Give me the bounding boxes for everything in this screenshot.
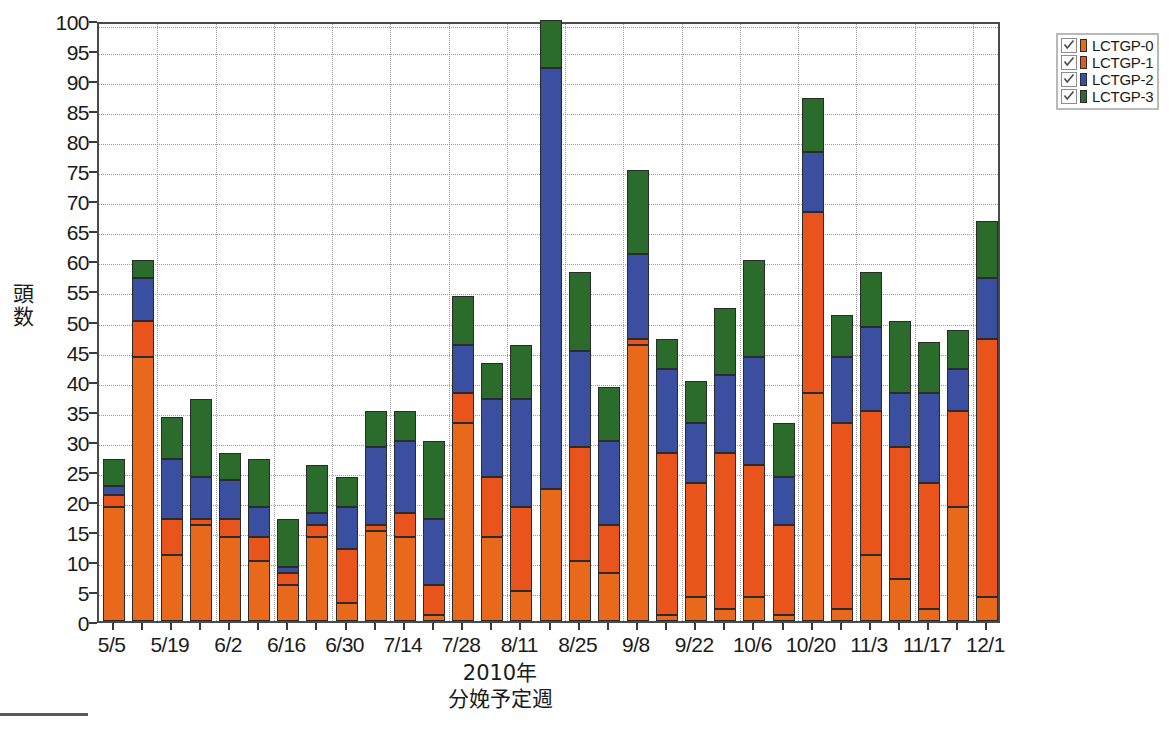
bar-segment-lctgp-0[interactable]: [190, 525, 212, 621]
bar-group[interactable]: [743, 20, 765, 621]
bar-segment-lctgp-3[interactable]: [540, 20, 562, 68]
bar-segment-lctgp-1[interactable]: [918, 483, 940, 609]
bar-segment-lctgp-0[interactable]: [598, 573, 620, 621]
bar-segment-lctgp-0[interactable]: [394, 537, 416, 621]
bar-segment-lctgp-2[interactable]: [103, 486, 125, 495]
bar-segment-lctgp-0[interactable]: [831, 609, 853, 621]
bar-segment-lctgp-2[interactable]: [394, 441, 416, 513]
bar-segment-lctgp-1[interactable]: [569, 447, 591, 561]
bar-segment-lctgp-2[interactable]: [947, 369, 969, 411]
bar-segment-lctgp-3[interactable]: [889, 321, 911, 393]
bar-segment-lctgp-0[interactable]: [481, 537, 503, 621]
legend-item-lctgp-1[interactable]: LCTGP-1: [1061, 54, 1153, 71]
bar-segment-lctgp-1[interactable]: [947, 411, 969, 507]
bar-segment-lctgp-3[interactable]: [802, 98, 824, 152]
bar-group[interactable]: [685, 20, 707, 621]
bar-segment-lctgp-3[interactable]: [132, 260, 154, 278]
bar-segment-lctgp-0[interactable]: [918, 609, 940, 621]
bar-segment-lctgp-3[interactable]: [190, 399, 212, 477]
bar-segment-lctgp-1[interactable]: [889, 447, 911, 579]
bar-segment-lctgp-1[interactable]: [773, 525, 795, 615]
bar-segment-lctgp-0[interactable]: [103, 507, 125, 621]
bar-segment-lctgp-3[interactable]: [248, 459, 270, 507]
bar-segment-lctgp-0[interactable]: [569, 561, 591, 621]
bar-group[interactable]: [481, 20, 503, 621]
bar-segment-lctgp-0[interactable]: [423, 615, 445, 621]
bar-group[interactable]: [161, 20, 183, 621]
bar-segment-lctgp-3[interactable]: [394, 411, 416, 441]
bar-segment-lctgp-1[interactable]: [394, 513, 416, 537]
bar-segment-lctgp-3[interactable]: [773, 423, 795, 477]
bar-segment-lctgp-1[interactable]: [336, 549, 358, 603]
bar-segment-lctgp-2[interactable]: [860, 327, 882, 411]
bar-segment-lctgp-3[interactable]: [365, 411, 387, 447]
checkbox-checked-icon[interactable]: [1061, 72, 1077, 87]
bar-group[interactable]: [336, 20, 358, 621]
bar-segment-lctgp-0[interactable]: [540, 489, 562, 621]
bar-segment-lctgp-2[interactable]: [714, 375, 736, 453]
bar-group[interactable]: [190, 20, 212, 621]
bar-group[interactable]: [306, 20, 328, 621]
bar-segment-lctgp-2[interactable]: [481, 399, 503, 477]
bar-segment-lctgp-0[interactable]: [860, 555, 882, 621]
bar-group[interactable]: [773, 20, 795, 621]
bar-segment-lctgp-2[interactable]: [773, 477, 795, 525]
bar-segment-lctgp-0[interactable]: [743, 597, 765, 621]
bar-group[interactable]: [365, 20, 387, 621]
bar-group[interactable]: [132, 20, 154, 621]
bar-segment-lctgp-1[interactable]: [452, 393, 474, 423]
bar-segment-lctgp-1[interactable]: [306, 525, 328, 537]
legend[interactable]: LCTGP-0LCTGP-1LCTGP-2LCTGP-3: [1056, 33, 1159, 110]
bar-segment-lctgp-1[interactable]: [743, 465, 765, 597]
bar-segment-lctgp-0[interactable]: [365, 531, 387, 621]
bar-segment-lctgp-2[interactable]: [598, 441, 620, 525]
bar-segment-lctgp-0[interactable]: [452, 423, 474, 621]
bar-segment-lctgp-3[interactable]: [976, 221, 998, 278]
bar-group[interactable]: [947, 20, 969, 621]
bar-segment-lctgp-0[interactable]: [889, 579, 911, 621]
bar-segment-lctgp-3[interactable]: [743, 260, 765, 356]
bar-segment-lctgp-0[interactable]: [976, 597, 998, 621]
bar-segment-lctgp-1[interactable]: [976, 339, 998, 597]
bar-segment-lctgp-2[interactable]: [510, 399, 532, 507]
bar-segment-lctgp-2[interactable]: [423, 519, 445, 585]
bar-segment-lctgp-0[interactable]: [132, 357, 154, 621]
bar-group[interactable]: [248, 20, 270, 621]
bar-group[interactable]: [540, 20, 562, 621]
bar-group[interactable]: [802, 20, 824, 621]
bar-segment-lctgp-0[interactable]: [336, 603, 358, 621]
bar-segment-lctgp-0[interactable]: [714, 609, 736, 621]
bar-segment-lctgp-1[interactable]: [481, 477, 503, 537]
legend-item-lctgp-2[interactable]: LCTGP-2: [1061, 71, 1153, 88]
bar-group[interactable]: [277, 20, 299, 621]
bar-group[interactable]: [889, 20, 911, 621]
bar-segment-lctgp-2[interactable]: [336, 507, 358, 549]
legend-item-lctgp-3[interactable]: LCTGP-3: [1061, 88, 1153, 105]
bar-group[interactable]: [394, 20, 416, 621]
bar-group[interactable]: [918, 20, 940, 621]
bar-segment-lctgp-3[interactable]: [947, 330, 969, 369]
bar-segment-lctgp-1[interactable]: [103, 495, 125, 507]
bar-segment-lctgp-2[interactable]: [248, 507, 270, 537]
bar-segment-lctgp-1[interactable]: [161, 519, 183, 555]
bar-segment-lctgp-2[interactable]: [802, 152, 824, 212]
bar-group[interactable]: [219, 20, 241, 621]
bar-segment-lctgp-3[interactable]: [714, 308, 736, 374]
bar-group[interactable]: [103, 20, 125, 621]
checkbox-checked-icon[interactable]: [1061, 89, 1077, 104]
bar-segment-lctgp-2[interactable]: [656, 369, 678, 453]
bar-segment-lctgp-0[interactable]: [627, 345, 649, 621]
bar-segment-lctgp-3[interactable]: [423, 441, 445, 519]
checkbox-checked-icon[interactable]: [1061, 38, 1077, 53]
bar-segment-lctgp-0[interactable]: [306, 537, 328, 621]
bar-segment-lctgp-1[interactable]: [598, 525, 620, 573]
bar-segment-lctgp-3[interactable]: [831, 315, 853, 357]
bar-segment-lctgp-0[interactable]: [219, 537, 241, 621]
bar-segment-lctgp-1[interactable]: [685, 483, 707, 597]
bar-segment-lctgp-1[interactable]: [831, 423, 853, 609]
bar-group[interactable]: [510, 20, 532, 621]
bar-segment-lctgp-0[interactable]: [248, 561, 270, 621]
bar-segment-lctgp-1[interactable]: [423, 585, 445, 615]
bar-segment-lctgp-3[interactable]: [627, 170, 649, 254]
bar-segment-lctgp-2[interactable]: [889, 393, 911, 447]
